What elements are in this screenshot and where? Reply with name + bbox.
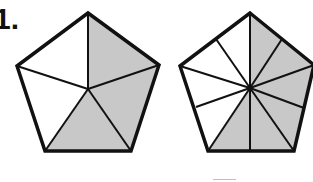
pentagon-fifths — [17, 13, 159, 151]
pentagon-tenths — [180, 13, 313, 151]
divider-line — [17, 66, 88, 89]
center-point — [248, 86, 252, 90]
divider-line — [180, 66, 250, 88]
divider-line — [216, 39, 250, 88]
answer-blank-mark — [213, 179, 236, 180]
diagram-canvas — [0, 0, 313, 182]
